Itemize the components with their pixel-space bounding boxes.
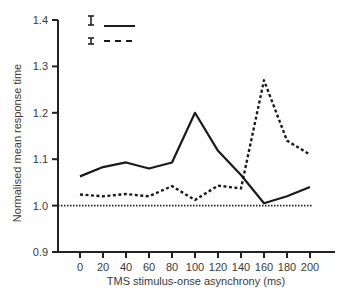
- line-chart: 0.91.01.11.21.31.4 020406080100120140160…: [0, 0, 345, 298]
- series-solid-line: [80, 113, 310, 203]
- y-tick-label: 1.4: [33, 14, 48, 26]
- x-ticks: 020406080100120140160180200: [77, 252, 319, 273]
- legend: [88, 16, 135, 44]
- x-tick-label: 0: [77, 261, 83, 273]
- x-tick-label: 40: [120, 261, 132, 273]
- x-tick-label: 80: [166, 261, 178, 273]
- x-tick-label: 160: [255, 261, 273, 273]
- y-ticks: 0.91.01.11.21.31.4: [33, 14, 58, 258]
- x-tick-label: 20: [97, 261, 109, 273]
- plot-area: [58, 80, 312, 205]
- y-tick-label: 1.2: [33, 107, 48, 119]
- x-tick-label: 180: [278, 261, 296, 273]
- x-tick-label: 100: [186, 261, 204, 273]
- legend-error-bar-icon-dashed: [88, 38, 94, 44]
- x-tick-label: 200: [301, 261, 319, 273]
- y-tick-label: 1.3: [33, 60, 48, 72]
- y-tick-label: 1.0: [33, 200, 48, 212]
- axes: [57, 20, 335, 252]
- y-tick-label: 0.9: [33, 246, 48, 258]
- y-tick-label: 1.1: [33, 153, 48, 165]
- x-tick-label: 140: [232, 261, 250, 273]
- series-dashed-line: [80, 80, 310, 200]
- x-axis-title: TMS stimulus-onse asynchrony (ms): [107, 275, 286, 287]
- legend-error-bar-icon-solid: [88, 16, 94, 25]
- x-tick-label: 120: [209, 261, 227, 273]
- x-tick-label: 60: [143, 261, 155, 273]
- y-axis-title: Normalised mean response time: [11, 64, 23, 222]
